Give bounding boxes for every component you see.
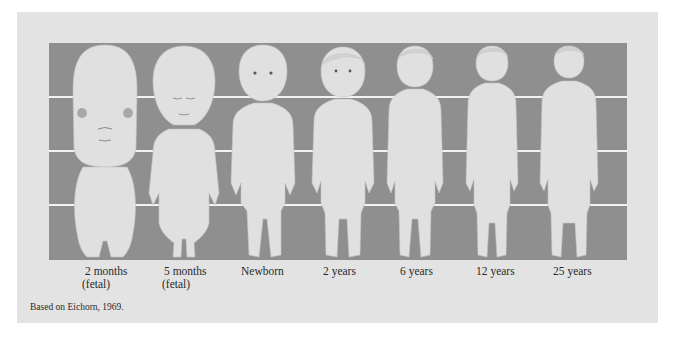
- stage-label-25-years: 25 years: [553, 265, 592, 278]
- figure-2-years: [312, 47, 374, 257]
- stage-label-5-months: 5 months (fetal): [164, 265, 207, 291]
- figure-newborn: [231, 45, 295, 257]
- stage-label-newborn: Newborn: [241, 265, 284, 278]
- stage-label-2-years: 2 years: [323, 265, 356, 278]
- source-caption: Based on Eichorn, 1969.: [30, 302, 124, 312]
- stage-label-2-months: 2 months (fetal): [85, 265, 128, 291]
- figure-6-years: [387, 46, 443, 257]
- figure-5-months-fetal: [149, 46, 219, 257]
- figure-25-years: [540, 46, 598, 257]
- figures-row: [49, 43, 627, 260]
- stage-label-6-years: 6 years: [400, 265, 433, 278]
- stage-label-12-years: 12 years: [476, 265, 515, 278]
- figure-2-months-fetal: [73, 45, 137, 257]
- figure-12-years: [466, 46, 518, 257]
